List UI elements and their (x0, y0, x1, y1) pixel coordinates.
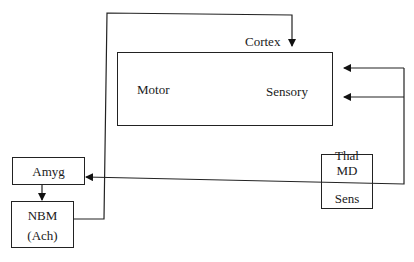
thal-box: MD Sens (321, 154, 373, 209)
amyg-box: Amyg (12, 157, 85, 185)
thal-md-label: MD (322, 164, 372, 177)
motor-label: Motor (137, 83, 170, 96)
nbm-box: NBM (Ach) (11, 201, 74, 248)
cortex-box: Motor Sensory (117, 52, 333, 126)
nbm-label: NBM (12, 209, 73, 222)
nbm-sublabel: (Ach) (12, 229, 73, 242)
cortex-title: Cortex (245, 35, 280, 48)
sensory-label: Sensory (266, 85, 308, 98)
amyg-label: Amyg (13, 165, 84, 178)
thal-sens-label: Sens (322, 192, 372, 205)
